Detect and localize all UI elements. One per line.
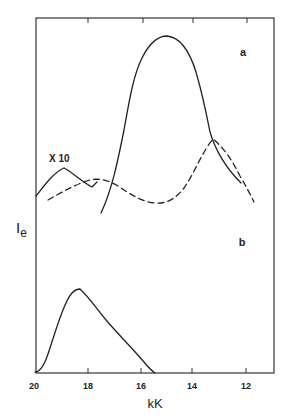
x-tick-label: 14 [187,381,197,391]
top-ticks [88,18,247,23]
x-tick-label: 20 [29,381,39,391]
curve-a-dashed [48,139,254,203]
x-tick-label: 18 [83,381,93,391]
curve-a-x10 [36,168,97,196]
plot-frame [36,18,274,373]
panel-a-label: a [240,46,247,58]
y-axis-label: Ie [16,219,27,240]
spectrum-chart: 20 18 16 14 12 kK Ie a b X 10 [0,0,289,419]
scale-factor-label: X 10 [49,153,70,164]
bottom-ticks [88,368,246,373]
x-tick-label: 16 [136,381,146,391]
x-axis-label: kK [147,396,163,411]
panel-b-label: b [239,236,246,248]
curve-a-solid [101,36,241,213]
curve-b [35,289,155,373]
x-tick-label: 12 [241,381,251,391]
